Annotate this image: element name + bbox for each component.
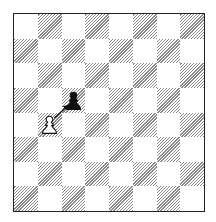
square-b3 (38, 137, 62, 162)
square-c4 (62, 113, 86, 138)
square-c7 (62, 39, 86, 64)
square-d5 (85, 88, 109, 113)
square-d8 (85, 14, 109, 39)
square-h5 (180, 88, 204, 113)
square-d2 (85, 162, 109, 187)
white-pawn-icon (40, 114, 59, 135)
square-e3 (109, 137, 133, 162)
square-a7 (14, 39, 38, 64)
square-g7 (157, 39, 181, 64)
square-c3 (62, 137, 86, 162)
square-e5 (109, 88, 133, 113)
square-f3 (133, 137, 157, 162)
square-d4 (85, 113, 109, 138)
square-e4 (109, 113, 133, 138)
square-a8 (14, 14, 38, 39)
square-f7 (133, 39, 157, 64)
square-g8 (157, 14, 181, 39)
square-d6 (85, 63, 109, 88)
square-b5 (38, 88, 62, 113)
square-c6 (62, 63, 86, 88)
square-g2 (157, 162, 181, 187)
square-e1 (109, 186, 133, 211)
square-a5 (14, 88, 38, 113)
square-g3 (157, 137, 181, 162)
square-a6 (14, 63, 38, 88)
square-g5 (157, 88, 181, 113)
square-a1 (14, 186, 38, 211)
square-h2 (180, 162, 204, 187)
chess-board (13, 13, 205, 212)
square-f8 (133, 14, 157, 39)
square-f1 (133, 186, 157, 211)
square-g4 (157, 113, 181, 138)
square-h3 (180, 137, 204, 162)
square-a2 (14, 162, 38, 187)
square-d1 (85, 186, 109, 211)
square-a3 (14, 137, 38, 162)
square-e7 (109, 39, 133, 64)
square-e6 (109, 63, 133, 88)
square-f5 (133, 88, 157, 113)
square-b6 (38, 63, 62, 88)
square-f2 (133, 162, 157, 187)
square-g1 (157, 186, 181, 211)
square-b4 (38, 113, 62, 138)
square-f4 (133, 113, 157, 138)
square-c1 (62, 186, 86, 211)
square-d3 (85, 137, 109, 162)
square-a4 (14, 113, 38, 138)
square-d7 (85, 39, 109, 64)
square-h4 (180, 113, 204, 138)
black-pawn-icon (64, 90, 83, 111)
square-b1 (38, 186, 62, 211)
square-e2 (109, 162, 133, 187)
square-h7 (180, 39, 204, 64)
square-b7 (38, 39, 62, 64)
square-b8 (38, 14, 62, 39)
square-h6 (180, 63, 204, 88)
square-f6 (133, 63, 157, 88)
square-h1 (180, 186, 204, 211)
square-e8 (109, 14, 133, 39)
square-c8 (62, 14, 86, 39)
square-c2 (62, 162, 86, 187)
square-b2 (38, 162, 62, 187)
square-c5 (62, 88, 86, 113)
square-g6 (157, 63, 181, 88)
square-h8 (180, 14, 204, 39)
